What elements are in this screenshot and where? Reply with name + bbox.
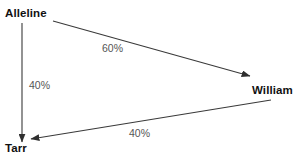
edge-label-alleline-william: 60% xyxy=(102,42,123,54)
influence-diagram: Alleline William Tarr 60% 40% 40% xyxy=(0,0,294,156)
node-label-william: William xyxy=(252,84,293,96)
node-label-tarr: Tarr xyxy=(5,142,27,154)
edge-alleline-william xyxy=(53,21,250,76)
node-label-alleline: Alleline xyxy=(5,7,47,19)
edge-label-alleline-tarr: 40% xyxy=(29,79,50,91)
edge-label-william-tarr: 40% xyxy=(129,127,150,139)
edge-william-tarr xyxy=(31,100,271,139)
